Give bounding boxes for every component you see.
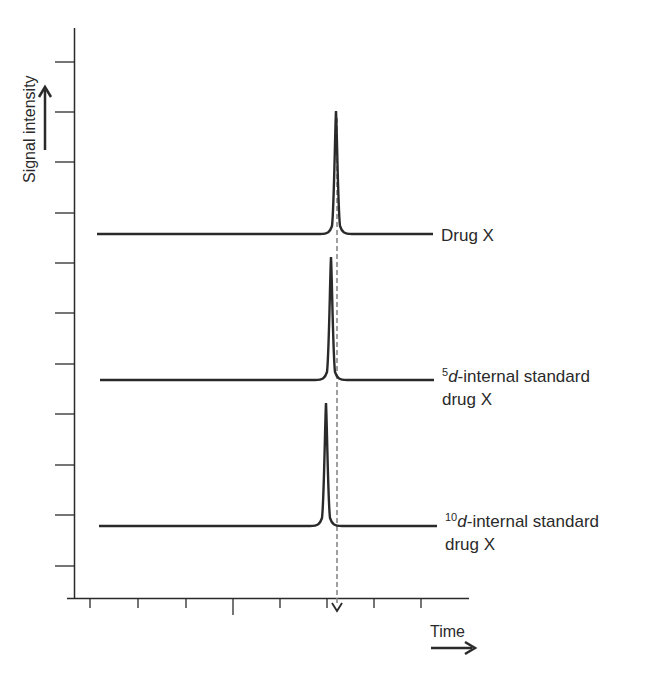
y-axis-arrow-icon [39,87,51,150]
trace-5d-internal-standard [100,257,434,380]
trace-label-10d-internal-standard: 10d-internal standard drug X [445,507,599,555]
trace-label-text: -internal standard [458,367,590,386]
trace-label-line2: drug X [445,535,599,555]
trace-label-text: Drug X [441,226,494,245]
chromatogram-plot [0,0,659,683]
deuterium-prefix: d [457,512,466,531]
x-axis-ticks [90,598,421,615]
x-axis-label: Time [430,623,465,641]
trace-label-5d-internal-standard: 5d-internal standard drug X [442,362,590,410]
trace-label-text: -internal standard [467,512,599,531]
isotope-superscript: 10 [445,511,457,523]
trace-label-line1: 10d-internal standard [445,507,599,532]
trace-label-drug-x: Drug X [441,226,494,246]
y-axis-label: Signal intensity [21,75,39,183]
x-axis-arrow-icon [431,642,475,654]
trace-label-line2: drug X [442,390,590,410]
trace-drug-x [97,111,433,234]
y-axis-ticks [55,62,74,566]
trace-10d-internal-standard [99,403,437,526]
deuterium-prefix: d [448,367,457,386]
trace-label-line1: 5d-internal standard [442,362,590,387]
